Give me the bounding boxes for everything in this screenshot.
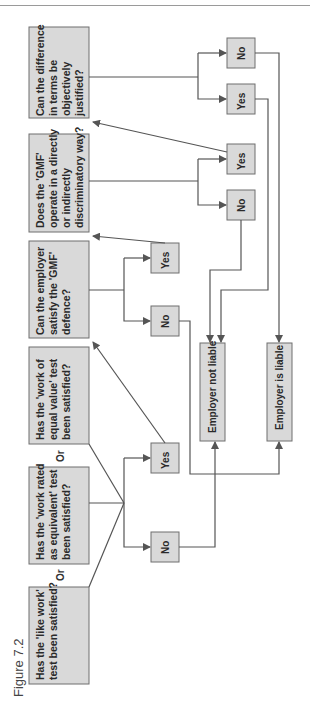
answer-gmf-no: No [151, 306, 179, 336]
svg-text:No: No [160, 541, 171, 554]
question-line: or indirectly [60, 168, 72, 228]
connector-lines [89, 53, 279, 587]
answer-test-yes: Yes [151, 443, 179, 473]
question-line: operate in a directly [47, 129, 59, 228]
question-gmf-defence: Can the employer satisfy the 'GMF' defen… [29, 241, 89, 338]
answer-discrim-yes: Yes [227, 144, 255, 174]
question-line: in terms be [47, 60, 59, 116]
svg-text:Yes: Yes [160, 251, 171, 269]
answer-test-no: No [151, 532, 179, 562]
question-line: Has the 'work rated [34, 464, 46, 560]
flowchart: Can the difference in terms be objective… [0, 0, 310, 719]
or-connector: Or [55, 569, 66, 581]
outcome-employer-is-liable: Employer is liable [267, 343, 292, 441]
question-objective-justification: Can the difference in terms be objective… [29, 24, 89, 118]
svg-text:No: No [236, 47, 247, 60]
question-line: been satisfied? [60, 364, 72, 440]
outcome-employer-not-liable: Employer not liable [200, 340, 225, 441]
question-like-work: Has the 'like work' test been satisfied? [29, 582, 89, 684]
svg-text:Yes: Yes [160, 451, 171, 469]
question-line: Can the difference [34, 24, 46, 116]
question-line: defence? [60, 289, 72, 335]
question-line: Can the employer [34, 247, 46, 335]
question-line: equal value' test [47, 358, 59, 440]
question-line: satisfy the 'GMF' [47, 252, 59, 335]
svg-text:No: No [160, 315, 171, 328]
svg-text:Employer not liable: Employer not liable [207, 340, 218, 433]
question-line: been satisfied? [60, 484, 72, 560]
question-work-rated: Has the 'work rated as equivalent' test … [29, 464, 89, 564]
question-line: Has the 'like work' [34, 589, 46, 680]
question-line: Does the 'GMF' [34, 152, 46, 228]
svg-text:Yes: Yes [236, 92, 247, 110]
question-line: as equivalent' test [47, 469, 59, 560]
question-line: justified? [73, 69, 85, 117]
question-line: objectively [60, 62, 72, 116]
svg-text:No: No [236, 199, 247, 212]
answer-discrim-no: No [227, 190, 255, 220]
answer-objective-yes: Yes [227, 84, 255, 114]
question-line: test been satisfied? [47, 582, 59, 680]
figure-caption: Figure 7.2 [11, 638, 26, 697]
question-gmf-discriminatory: Does the 'GMF' operate in a directly or … [29, 126, 89, 232]
question-line: Has the 'work of [34, 359, 46, 440]
answer-objective-no: No [227, 38, 255, 68]
or-connector: Or [55, 450, 66, 462]
answer-gmf-yes: Yes [151, 243, 179, 273]
question-line: discriminatory way? [73, 126, 85, 228]
svg-text:Yes: Yes [236, 152, 247, 170]
svg-text:Employer is liable: Employer is liable [274, 345, 285, 430]
question-equal-value: Has the 'work of equal value' test been … [29, 347, 89, 444]
